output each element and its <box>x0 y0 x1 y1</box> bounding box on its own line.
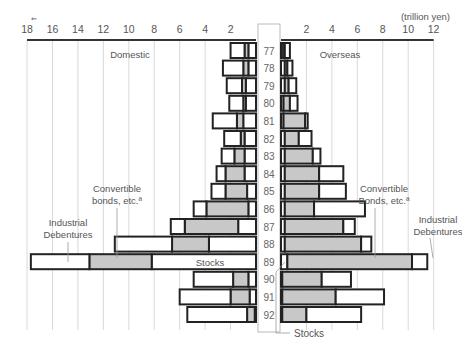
overseas-bar-segment <box>412 254 427 269</box>
overseas-convertible-label: Convertible <box>360 183 408 194</box>
overseas-convertible-label: Bonds, etc.ª <box>358 195 410 206</box>
overseas-bar-segment <box>319 184 346 199</box>
domestic-label: Domestic <box>110 49 150 60</box>
domestic-industrial-label: Debentures <box>43 229 92 240</box>
overseas-bar-segment <box>285 184 319 199</box>
domestic-bar-segment <box>248 43 256 58</box>
domestic-bar-segment <box>245 131 256 146</box>
domestic-bar-segment <box>222 149 235 164</box>
domestic-bar-segment <box>245 166 256 181</box>
right-tick-label: 2 <box>304 23 310 35</box>
domestic-bar-segment <box>229 96 243 111</box>
overseas-bar-segment <box>287 61 292 76</box>
domestic-bar-segment <box>223 61 243 76</box>
domestic-bar-segment <box>211 184 225 199</box>
domestic-bar-segment <box>246 78 256 93</box>
left-tick-label: 12 <box>98 23 110 35</box>
domestic-bar-segment <box>234 149 244 164</box>
domestic-bar-segment <box>172 237 209 252</box>
domestic-bar-segment <box>217 166 226 181</box>
overseas-bar-segment <box>319 166 343 181</box>
domestic-bar-segment <box>225 184 247 199</box>
left-tick-label: 10 <box>123 23 135 35</box>
left-tick-label: 6 <box>177 23 183 35</box>
overseas-stocks-label: Stocks <box>294 328 324 339</box>
left-tick-label: 2 <box>228 23 234 35</box>
leader-line <box>430 238 433 258</box>
year-label: 83 <box>263 151 275 162</box>
domestic-bar-segment <box>225 166 244 181</box>
overseas-bar-segment <box>290 96 298 111</box>
left-tick-label: 14 <box>72 23 84 35</box>
year-label: 79 <box>263 81 275 92</box>
year-label: 80 <box>263 98 275 109</box>
right-tick-label: 4 <box>329 23 335 35</box>
domestic-bar-segment <box>115 237 172 252</box>
year-label: 77 <box>263 46 275 57</box>
overseas-industrial-label: Debentures <box>413 226 462 237</box>
domestic-bar-segment <box>231 289 250 304</box>
domestic-bar-segment <box>243 113 256 128</box>
domestic-bar-segment <box>224 131 241 146</box>
domestic-bar-segment <box>248 272 256 287</box>
overseas-bar-segment <box>285 131 299 146</box>
domestic-industrial-label: Industrial <box>49 217 88 228</box>
domestic-convertible-label: Convertible <box>93 183 141 194</box>
domestic-bar-segment <box>213 113 237 128</box>
right-tick-label: 8 <box>380 23 386 35</box>
overseas-bar-segment <box>314 201 365 216</box>
overseas-bar-segment <box>287 254 412 269</box>
unit-label: (trillion yen) <box>401 11 450 22</box>
domestic-bar-segment <box>206 201 248 216</box>
year-label: 89 <box>263 257 275 268</box>
year-label: 84 <box>263 169 275 180</box>
domestic-bar-segment <box>231 43 245 58</box>
domestic-bar-segment <box>194 201 207 216</box>
overseas-bar-segment <box>285 201 314 216</box>
year-label: 86 <box>263 204 275 215</box>
overseas-bar-segment <box>343 219 354 234</box>
domestic-bar-segment <box>209 237 256 252</box>
right-tick-label: 12 <box>428 23 440 35</box>
overseas-label: Overseas <box>320 49 361 60</box>
overseas-bar-segment <box>282 289 335 304</box>
domestic-stocks-label: Stocks <box>196 257 225 268</box>
domestic-bar-segment <box>89 254 151 269</box>
left-tick-label: 16 <box>47 23 59 35</box>
right-tick-label: 6 <box>354 23 360 35</box>
year-label: 78 <box>263 63 275 74</box>
overseas-bar-segment <box>361 237 371 252</box>
overseas-bar-segment <box>285 237 361 252</box>
domestic-bar-segment <box>171 219 185 234</box>
domestic-bar-segment <box>238 219 256 234</box>
overseas-bar-segment <box>285 43 290 58</box>
overseas-bar-segment <box>322 272 351 287</box>
overseas-bar-segment <box>306 307 361 322</box>
domestic-bar-segment <box>248 61 256 76</box>
overseas-bar-segment <box>285 149 313 164</box>
overseas-bar-segment <box>299 131 312 146</box>
year-label: 85 <box>263 186 275 197</box>
year-label: 90 <box>263 274 275 285</box>
domestic-bar-segment <box>248 201 256 216</box>
overseas-bar-segment <box>289 78 297 93</box>
butterfly-bar-chart: 1816141210864224681012(trillion yen)⇐ 77… <box>0 0 462 352</box>
overseas-bar-segment <box>305 113 308 128</box>
domestic-bar-segment <box>227 78 242 93</box>
year-label: 81 <box>263 116 275 127</box>
domestic-bar-segment <box>247 184 256 199</box>
overseas-industrial-label: Industrial <box>419 214 458 225</box>
left-arrow-icon: ⇐ <box>31 15 37 22</box>
domestic-bar-segment <box>233 272 248 287</box>
overseas-bar-segment <box>313 149 321 164</box>
year-label: 91 <box>263 292 275 303</box>
domestic-convertible-label: bonds, etc.ª <box>92 195 142 206</box>
overseas-bar-segment <box>336 289 384 304</box>
overseas-bar-segment <box>285 219 344 234</box>
domestic-bar-segment <box>31 254 90 269</box>
overseas-bar-segment <box>282 272 321 287</box>
left-tick-label: 4 <box>202 23 208 35</box>
domestic-bar-segment <box>245 149 256 164</box>
right-tick-label: 10 <box>402 23 414 35</box>
domestic-bar-segment <box>187 307 247 322</box>
